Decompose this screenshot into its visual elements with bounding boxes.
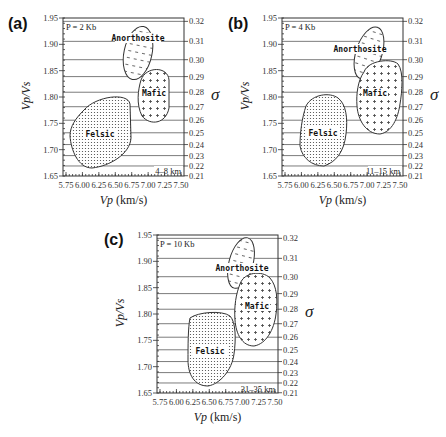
y-tick-label: 1.95 — [262, 13, 277, 23]
panel-label: (a) — [8, 15, 28, 32]
panel-label: (b) — [228, 15, 248, 32]
sigma-tick-label: 0.27 — [408, 102, 423, 112]
sigma-tick-label: 0.30 — [189, 55, 204, 65]
y-tick-label: 1.90 — [43, 39, 58, 49]
x-axis-title: Vp (km/s) — [194, 410, 242, 424]
felsic-label: Felsic — [86, 129, 115, 139]
sigma-tick-label: 0.25 — [408, 128, 423, 138]
sigma-tick-label: 0.21 — [283, 388, 298, 398]
felsic-label: Felsic — [309, 128, 338, 138]
y-tick-label: 1.65 — [43, 171, 58, 181]
y-tick-label: 1.65 — [262, 171, 277, 181]
felsic-label: Felsic — [196, 346, 225, 356]
y-tick-label: 1.70 — [43, 145, 58, 155]
sigma-tick-label: 0.30 — [283, 272, 298, 282]
sigma-tick-label: 0.26 — [408, 115, 423, 125]
x-tick-label: 6.50 — [108, 180, 123, 190]
x-tick-label: 6.00 — [75, 180, 90, 190]
sigma-tick-label: 0.23 — [283, 368, 298, 378]
y-tick-label: 1.95 — [137, 230, 152, 240]
anorthosite-label: Anorthosite — [112, 33, 165, 43]
sigma-tick-label: 0.29 — [189, 72, 204, 82]
x-tick-label: 6.00 — [169, 397, 184, 407]
sigma-tick-label: 0.21 — [408, 171, 423, 181]
y-tick-label: 1.85 — [43, 66, 58, 76]
x-tick-label: 7.25 — [157, 180, 172, 190]
y-tick-label: 1.70 — [137, 362, 152, 372]
sigma-tick-label: 0.23 — [189, 151, 204, 161]
y-tick-label: 1.80 — [43, 92, 58, 102]
sigma-axis-title: σ — [305, 302, 314, 321]
x-tick-label: 7.25 — [251, 397, 266, 407]
panel-c: (c) Anorthosite Mafic Felsic P = 10 Kb 3… — [104, 230, 314, 424]
y-tick-label: 1.80 — [262, 92, 277, 102]
sigma-tick-label: 0.21 — [189, 171, 204, 181]
x-tick-label: 6.75 — [124, 180, 139, 190]
x-tick-label: 7.50 — [174, 180, 189, 190]
sigma-tick-label: 0.23 — [408, 151, 423, 161]
sigma-tick-label: 0.29 — [283, 289, 298, 299]
sigma-tick-label: 0.28 — [408, 87, 423, 97]
y-tick-label: 1.95 — [43, 13, 58, 23]
x-axis-title: Vp (km/s) — [100, 193, 148, 207]
sigma-tick-label: 0.24 — [189, 140, 205, 150]
panel-b: (b) Anorthosite Mafic Felsic P = 4 Kb 11… — [228, 13, 439, 207]
y-tick-label: 1.85 — [137, 283, 152, 293]
pressure-label: P = 10 Kb — [160, 239, 194, 249]
pressure-label: P = 2 Kb — [66, 22, 96, 32]
x-tick-label: 6.00 — [294, 180, 309, 190]
x-tick-label: 6.75 — [343, 180, 358, 190]
anorthosite-label: Anorthosite — [334, 44, 387, 54]
sigma-tick-label: 0.31 — [189, 36, 204, 46]
y-tick-label: 1.70 — [262, 145, 277, 155]
sigma-tick-label: 0.22 — [283, 378, 298, 388]
y-tick-label: 1.75 — [262, 118, 277, 128]
y-tick-label: 1.90 — [137, 256, 152, 266]
mafic-label: Mafic — [142, 88, 166, 98]
x-tick-label: 7.00 — [235, 397, 250, 407]
sigma-tick-label: 0.28 — [189, 87, 204, 97]
y-axis-title: Vp/Vs — [113, 298, 127, 327]
x-tick-label: 6.25 — [185, 397, 200, 407]
anorthosite-label: Anorthosite — [216, 263, 269, 273]
sigma-tick-label: 0.26 — [189, 115, 204, 125]
sigma-tick-label: 0.31 — [408, 36, 423, 46]
sigma-tick-label: 0.31 — [283, 253, 298, 263]
sigma-axis-title: σ — [211, 85, 220, 104]
y-tick-label: 1.65 — [137, 388, 152, 398]
sigma-axis-title: σ — [430, 85, 439, 104]
x-tick-label: 7.50 — [393, 180, 408, 190]
y-tick-label: 1.75 — [43, 118, 58, 128]
sigma-tick-label: 0.32 — [408, 16, 423, 26]
x-tick-label: 6.50 — [202, 397, 217, 407]
y-tick-label: 1.75 — [137, 335, 152, 345]
sigma-tick-label: 0.32 — [189, 16, 204, 26]
sigma-tick-label: 0.26 — [283, 332, 298, 342]
mafic-label: Mafic — [363, 88, 387, 98]
y-axis-title: Vp/Vs — [238, 81, 252, 110]
y-tick-label: 1.85 — [262, 66, 277, 76]
x-tick-label: 6.25 — [310, 180, 325, 190]
x-tick-label: 7.00 — [141, 180, 156, 190]
panel-label: (c) — [104, 231, 124, 248]
sigma-tick-label: 0.25 — [283, 345, 298, 355]
x-tick-label: 6.25 — [91, 180, 106, 190]
sigma-tick-label: 0.27 — [189, 102, 204, 112]
x-tick-label: 5.75 — [59, 180, 74, 190]
sigma-tick-label: 0.22 — [408, 161, 423, 171]
x-tick-label: 7.25 — [376, 180, 391, 190]
figure-canvas: (a) Anorthosite Mafic Felsic P = 2 Kb 4–… — [0, 0, 446, 437]
sigma-tick-label: 0.30 — [408, 55, 423, 65]
x-axis-title: Vp (km/s) — [319, 193, 367, 207]
pressure-label: P = 4 Kb — [285, 22, 315, 32]
sigma-tick-label: 0.24 — [408, 140, 424, 150]
sigma-tick-label: 0.25 — [189, 128, 204, 138]
y-tick-label: 1.80 — [137, 309, 152, 319]
sigma-tick-label: 0.27 — [283, 319, 298, 329]
panel-a: (a) Anorthosite Mafic Felsic P = 2 Kb 4–… — [8, 13, 220, 207]
x-tick-label: 5.75 — [278, 180, 293, 190]
x-tick-label: 7.00 — [360, 180, 375, 190]
sigma-tick-label: 0.28 — [283, 304, 298, 314]
mafic-label: Mafic — [245, 301, 269, 311]
y-tick-label: 1.90 — [262, 39, 277, 49]
